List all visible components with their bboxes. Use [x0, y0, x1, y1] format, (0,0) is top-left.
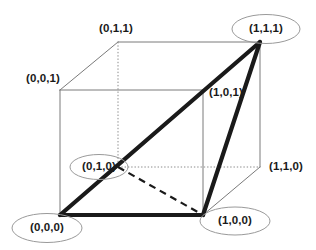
- tetra-dashed-group: [118, 167, 203, 215]
- cube-tetrahedron-figure: (0,1,1) (1,1,1) (0,0,1) (1,0,1) (0,1,0) …: [0, 0, 316, 250]
- tetrahedron-edges-group: [60, 42, 260, 215]
- vertex-ellipse-v000: [12, 214, 82, 243]
- cube-diagram-svg: [0, 0, 316, 250]
- vertex-ellipse-v111: [232, 15, 300, 44]
- tetra-edge-v010-v100-dashed: [118, 167, 203, 215]
- vertex-ellipse-v100: [200, 207, 270, 235]
- cube-edge-v001-v011: [60, 42, 118, 90]
